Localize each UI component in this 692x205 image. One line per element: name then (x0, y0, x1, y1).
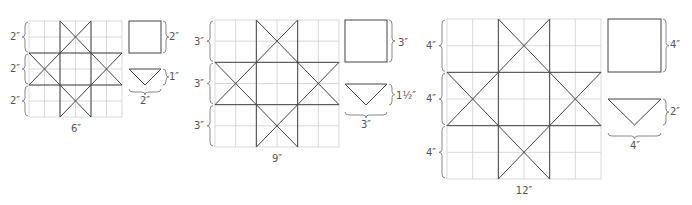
block2-row3-label: 3″ (194, 121, 204, 131)
sawtooth-star-diagrams (0, 0, 692, 205)
triangle-piece (129, 69, 161, 85)
grid (447, 19, 601, 179)
block3-row2-label: 4″ (426, 94, 436, 104)
block1-triangle-width-label: 2″ (140, 96, 150, 106)
square-piece (608, 19, 661, 72)
block2-square-label: 3″ (398, 38, 408, 48)
block3-row3-label: 4″ (426, 148, 436, 158)
block3-row1-label: 4″ (426, 41, 436, 51)
block1-row2-label: 2″ (10, 64, 20, 74)
block1-row1-label: 2″ (10, 32, 20, 42)
block-3 (439, 19, 669, 179)
block2-triangle-width-label: 3″ (361, 120, 371, 130)
block2-triangle-height-label: 1½″ (396, 91, 416, 101)
block1-size-label: 6″ (71, 124, 81, 134)
block1-triangle-height-label: 1″ (169, 72, 179, 82)
square-piece (345, 20, 387, 62)
square-piece (129, 21, 161, 53)
triangle-piece (608, 99, 661, 125)
block2-size-label: 9″ (272, 154, 282, 164)
block2-row1-label: 3″ (194, 37, 204, 47)
triangle-piece (345, 84, 387, 105)
block3-triangle-height-label: 2″ (670, 107, 680, 117)
block1-square-label: 2″ (169, 32, 179, 42)
block3-triangle-width-label: 4″ (630, 141, 640, 151)
grid (29, 21, 122, 117)
block3-square-label: 4″ (670, 40, 680, 50)
block3-size-label: 12″ (516, 186, 532, 196)
block1-row3-label: 2″ (10, 96, 20, 106)
block2-row2-label: 3″ (194, 79, 204, 89)
grid (215, 20, 339, 147)
